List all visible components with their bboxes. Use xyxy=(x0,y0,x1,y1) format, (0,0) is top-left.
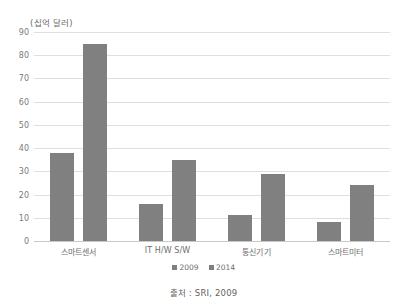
y-axis-tick-label: 30 xyxy=(19,167,29,176)
chart-legend: 20092014 xyxy=(0,263,407,272)
x-axis-tick-label: 통신기기 xyxy=(212,246,301,257)
bar-group xyxy=(301,32,390,241)
x-axis-tick-label: 스마트센서 xyxy=(34,246,123,257)
y-axis-tick-label: 70 xyxy=(19,74,29,83)
bar-2009 xyxy=(139,204,163,241)
y-axis-tick-label: 90 xyxy=(19,28,29,37)
legend-swatch-icon xyxy=(172,265,177,270)
legend-item-2014[interactable]: 2014 xyxy=(209,263,236,272)
y-axis-tick-label: 10 xyxy=(19,213,29,222)
legend-label: 2014 xyxy=(216,263,235,272)
bar-2014 xyxy=(83,44,107,241)
bar-group xyxy=(34,32,123,241)
y-axis-unit-label: (십억 달러) xyxy=(30,16,73,28)
y-axis-tick-label: 60 xyxy=(19,97,29,106)
legend-item-2009[interactable]: 2009 xyxy=(172,263,199,272)
x-axis-tick-label: IT H/W S/W xyxy=(123,246,212,257)
bar-group xyxy=(212,32,301,241)
x-axis-tick-label: 스마트미터 xyxy=(301,246,390,257)
bar-2014 xyxy=(350,185,374,241)
legend-label: 2009 xyxy=(179,263,198,272)
y-axis-tick-label: 50 xyxy=(19,120,29,129)
bars-layer xyxy=(34,32,390,241)
plot-area: 9080706050403020100 xyxy=(34,32,390,241)
bar-2009 xyxy=(317,222,341,241)
source-caption: 출처 : SRI, 2009 xyxy=(0,286,407,298)
bar-2014 xyxy=(172,160,196,241)
bar-2014 xyxy=(261,174,285,241)
bar-2009 xyxy=(228,215,252,241)
gridline: 0 xyxy=(34,241,390,242)
bar-2009 xyxy=(50,153,74,241)
bar-group xyxy=(123,32,212,241)
y-axis-tick-label: 80 xyxy=(19,51,29,60)
y-axis-tick-label: 0 xyxy=(24,237,29,246)
x-axis-labels: 스마트센서IT H/W S/W통신기기스마트미터 xyxy=(34,246,390,257)
bar-chart-figure: (십억 달러) 9080706050403020100 스마트센서IT H/W … xyxy=(0,0,407,304)
legend-swatch-icon xyxy=(209,265,214,270)
y-axis-tick-label: 20 xyxy=(19,190,29,199)
y-axis-tick-label: 40 xyxy=(19,144,29,153)
